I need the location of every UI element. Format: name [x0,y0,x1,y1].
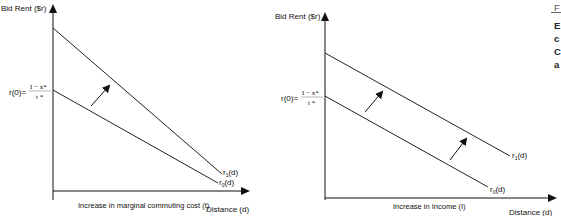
y-axis-arrowhead-icon [49,4,57,13]
intercept-denominator: t * [36,93,44,101]
intercept-denominator: t * [308,99,316,107]
curve-r0 [53,90,218,183]
curve-r1 [325,53,510,156]
curve-r1 [53,28,222,174]
edge-text-line: a [554,59,559,71]
left-chart-svg: Bid Rent ($r) Distance (d) Increase in m… [0,0,270,216]
y-axis-arrowhead-icon [321,12,329,21]
curve-r1-label: r1(d) [512,151,528,161]
curve-r0-label: r0(d) [219,178,235,188]
intercept-numerator: I − x* [302,89,319,97]
x-axis-arrowhead-icon [241,187,250,195]
x-axis-label: Distance (d) [509,208,552,216]
chart-caption: Increase in Income (I) [393,202,466,211]
intercept-label: r(0)= [281,94,298,103]
x-axis-arrowhead-icon [548,194,557,202]
left-chart: Bid Rent ($r) Distance (d) Increase in m… [0,0,270,216]
y-axis-label: Bid Rent ($r) [1,4,47,13]
right-chart-svg: Bid Rent ($r) Distance (d) Increase in I… [270,0,561,216]
curve-r0-label: r0(d) [490,185,506,195]
shift-arrow-icon [450,139,466,160]
edge-text-line: E [554,20,560,32]
right-chart: Bid Rent ($r) Distance (d) Increase in I… [270,0,561,216]
intercept-numerator: I − x* [30,83,47,91]
chart-caption: Increase in marginal commuting cost (t) [78,201,210,210]
edge-divider [551,12,561,13]
intercept-label: r(0)= [9,88,26,97]
curve-r1-label: r1(d) [223,168,239,178]
y-axis-label: Bid Rent ($r) [275,12,321,21]
shift-arrow-icon [365,92,382,112]
edge-text-line: c [554,33,559,45]
edge-text-line: C [554,46,561,58]
shift-arrow-icon [91,86,109,106]
x-axis-label: Distance (d) [206,205,249,214]
